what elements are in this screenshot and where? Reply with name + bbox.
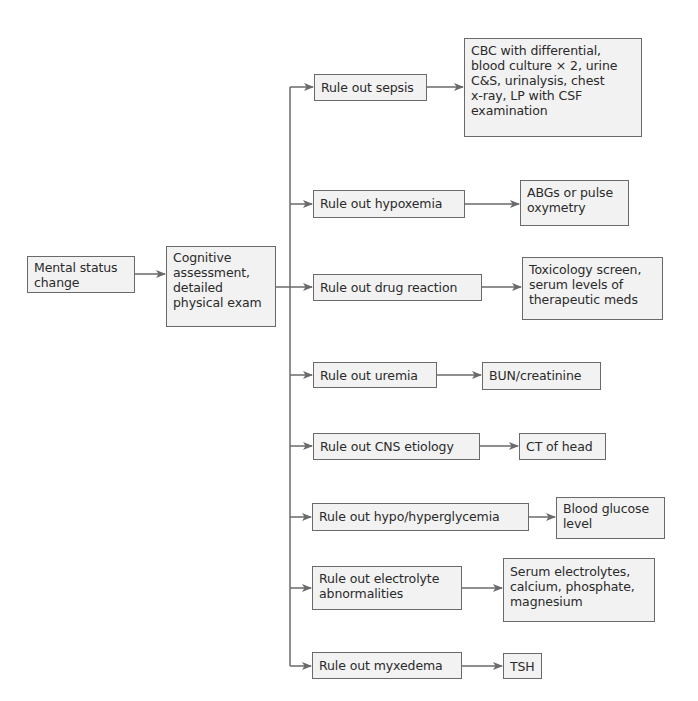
node-rule-out-electrolytes: Rule out electrolyte abnormalities (312, 566, 462, 610)
node-cognitive-assessment: Cognitive assessment, detailed physical … (166, 246, 276, 327)
node-mental-status-change: Mental status change (27, 256, 135, 293)
node-rule-out-glycemia: Rule out hypo/hyperglycemia (312, 503, 529, 531)
node-tests-sepsis: CBC with differential, blood culture × 2… (464, 38, 642, 137)
node-tests-myxedema: TSH (503, 653, 542, 679)
node-tests-cns-etiology: CT of head (519, 433, 606, 460)
node-tests-uremia: BUN/creatinine (482, 362, 601, 390)
node-tests-glycemia: Blood glucose level (556, 497, 665, 539)
node-rule-out-myxedema: Rule out myxedema (312, 652, 462, 679)
node-rule-out-drug-reaction: Rule out drug reaction (313, 274, 482, 301)
node-rule-out-sepsis: Rule out sepsis (314, 74, 427, 101)
node-rule-out-hypoxemia: Rule out hypoxemia (313, 190, 465, 218)
node-tests-drug-reaction: Toxicology screen, serum levels of thera… (522, 257, 663, 320)
node-tests-electrolytes: Serum electrolytes, calcium, phosphate, … (503, 558, 655, 622)
node-rule-out-uremia: Rule out uremia (313, 362, 437, 388)
node-tests-hypoxemia: ABGs or pulse oxymetry (520, 180, 629, 226)
node-rule-out-cns-etiology: Rule out CNS etiology (313, 433, 480, 460)
